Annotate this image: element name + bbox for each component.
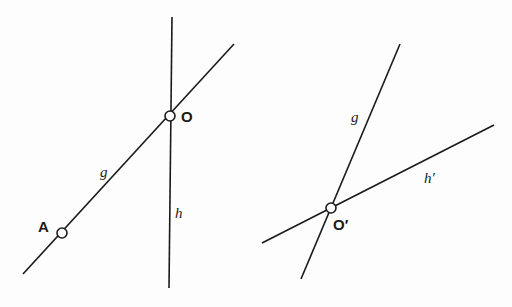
- point-o: [165, 111, 175, 121]
- geometry-figure: O A g h O′ g h′: [0, 0, 512, 307]
- label-g-right: g: [351, 109, 359, 125]
- label-h-prime: h′: [424, 170, 436, 186]
- label-h: h: [175, 205, 183, 221]
- right-panel: O′ g h′: [262, 44, 494, 279]
- line-g-right: [301, 44, 400, 279]
- line-h-prime: [262, 125, 494, 243]
- label-o: O: [181, 108, 193, 125]
- label-a: A: [38, 218, 49, 235]
- line-h: [169, 17, 172, 288]
- point-a: [57, 228, 67, 238]
- label-g-left: g: [100, 164, 108, 180]
- point-o-prime: [326, 203, 336, 213]
- figure-canvas: O A g h O′ g h′: [0, 0, 512, 307]
- label-o-prime: O′: [333, 216, 349, 233]
- line-g-left: [23, 44, 234, 274]
- left-panel: O A g h: [23, 17, 234, 288]
